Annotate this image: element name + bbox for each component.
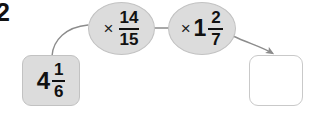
operation-oval-1: × 14 15 [88, 2, 155, 55]
operation-2-whole-number: 1 [194, 17, 207, 40]
operation-1-fraction: 14 15 [119, 9, 140, 49]
operation-2-expression: × 1 2 7 [181, 9, 224, 49]
connector-input-to-op1 [52, 25, 88, 56]
input-whole-number: 4 [37, 69, 50, 93]
input-numerator: 1 [53, 61, 64, 79]
operation-2-denominator: 7 [210, 31, 221, 49]
operation-oval-2: × 1 2 7 [168, 2, 236, 55]
multiply-icon-2: × [181, 20, 191, 37]
worksheet-problem: 2 4 1 6 × 14 15 × 1 2 [0, 0, 309, 117]
input-fraction: 1 6 [52, 61, 65, 101]
input-value-box: 4 1 6 [22, 55, 80, 106]
operation-2-fraction: 2 7 [208, 9, 223, 49]
question-number: 2 [0, 0, 9, 26]
input-mixed-number: 4 1 6 [37, 61, 65, 101]
input-denominator: 6 [53, 83, 64, 101]
operation-1-numerator: 14 [119, 9, 140, 27]
operation-1-denominator: 15 [119, 31, 140, 49]
connector-op2-to-output [233, 36, 272, 53]
operation-2-numerator: 2 [210, 9, 221, 27]
operation-1-expression: × 14 15 [104, 9, 140, 49]
multiply-icon-1: × [104, 20, 114, 37]
answer-box[interactable] [249, 55, 303, 106]
